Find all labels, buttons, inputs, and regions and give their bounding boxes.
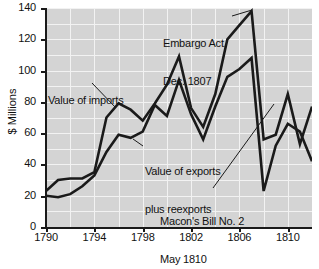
- y-axis-tick: [41, 164, 45, 166]
- annotation-embargo-act: Embargo Act, Dec. 1807: [163, 12, 227, 112]
- annotation-value-of-imports: Value of imports: [48, 69, 123, 132]
- x-axis-tick-label: 1810: [266, 231, 310, 243]
- annotation-embargo-line1: Embargo Act,: [163, 37, 227, 50]
- annotation-macon-line2: May 1810: [160, 253, 244, 266]
- y-axis: [45, 8, 47, 228]
- y-axis-tick: [41, 133, 45, 135]
- y-axis-tick-label: 80: [0, 96, 36, 107]
- y-axis-tick-label: 120: [0, 33, 36, 44]
- x-axis-tick-label: 1794: [72, 231, 116, 243]
- annotation-macons-bill: Macon's Bill No. 2 May 1810: [160, 190, 244, 269]
- x-axis-tick-label: 1790: [24, 231, 68, 243]
- y-axis-tick: [41, 196, 45, 198]
- annotation-exports-line1: Value of exports: [145, 165, 220, 178]
- y-axis-tick-label: 60: [0, 127, 36, 138]
- y-axis-tick: [41, 39, 45, 41]
- annotation-macon-line1: Macon's Bill No. 2: [160, 215, 244, 228]
- annotation-embargo-line2: Dec. 1807: [163, 75, 227, 88]
- y-axis-tick: [41, 102, 45, 104]
- y-axis-tick-label: 100: [0, 65, 36, 76]
- annotation-imports-line1: Value of imports: [48, 94, 123, 107]
- y-axis-tick-label: 140: [0, 2, 36, 13]
- y-axis-tick-label: 20: [0, 190, 36, 201]
- y-axis-tick: [41, 227, 45, 229]
- y-axis-title: $ Millions: [7, 72, 18, 152]
- y-axis-tick-label: 40: [0, 158, 36, 169]
- y-axis-tick: [41, 71, 45, 73]
- y-axis-tick: [41, 8, 45, 10]
